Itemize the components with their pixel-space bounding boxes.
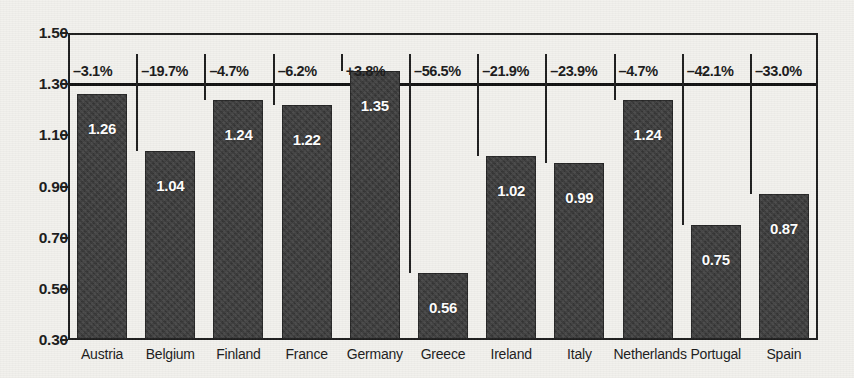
x-axis-category-label: Finland: [204, 346, 272, 362]
y-axis-tick-mark: [60, 339, 68, 341]
y-axis-tick-mark: [60, 83, 68, 85]
y-axis-tick-mark: [60, 288, 68, 290]
plot-frame: [68, 33, 818, 340]
x-axis-category-label: Spain: [750, 346, 818, 362]
x-axis-category-label: France: [273, 346, 341, 362]
y-axis-tick-mark: [60, 134, 68, 136]
x-axis-category-label: Austria: [68, 346, 136, 362]
x-axis-category-label: Germany: [341, 346, 409, 362]
x-axis-category-label: Belgium: [136, 346, 204, 362]
x-axis-category-label: Greece: [409, 346, 477, 362]
x-axis-category-label: Netherlands: [613, 346, 681, 362]
y-axis: 0.300.500.700.901.101.301.50: [0, 0, 68, 378]
x-axis-category-label: Portugal: [682, 346, 750, 362]
x-axis-category-label: Italy: [545, 346, 613, 362]
x-axis-category-label: Ireland: [477, 346, 545, 362]
y-axis-tick-mark: [60, 237, 68, 239]
bar-chart: 0.300.500.700.901.101.301.50 1.26–3.1%1.…: [0, 0, 854, 378]
y-axis-tick-mark: [60, 32, 68, 34]
y-axis-tick-mark: [60, 186, 68, 188]
